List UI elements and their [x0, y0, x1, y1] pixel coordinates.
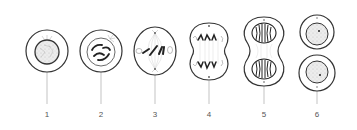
stage-6-cells	[299, 15, 335, 91]
stage-4-cell	[190, 23, 228, 80]
stage-2-label: 2	[91, 110, 111, 119]
stage-1-cell	[26, 30, 68, 72]
stage-5-cell	[244, 17, 283, 86]
stage-3-cell	[134, 27, 176, 75]
stage-2-cell	[80, 30, 122, 72]
stage-6-label: 6	[307, 110, 327, 119]
stage-5-label: 5	[254, 110, 274, 119]
stage-1-label: 1	[37, 110, 57, 119]
stage-3-label: 3	[145, 110, 165, 119]
stage-4-label: 4	[199, 110, 219, 119]
